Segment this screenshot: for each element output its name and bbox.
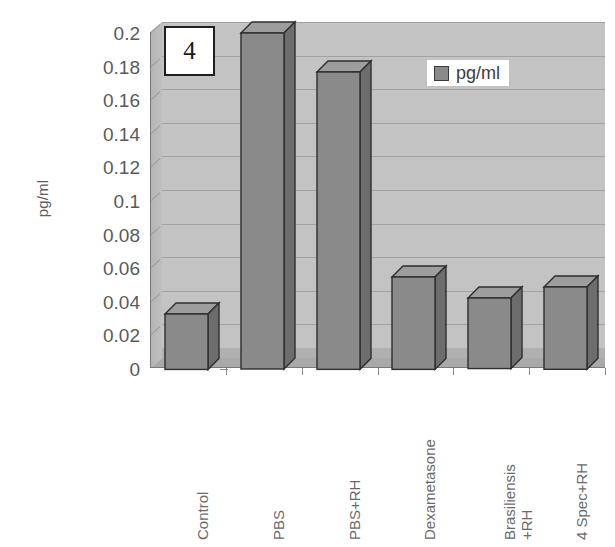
gridline (162, 156, 605, 157)
legend-label: pg/ml (456, 64, 500, 82)
x-axis-category-label-line: PBS+RH (346, 480, 363, 540)
gridline (162, 123, 605, 124)
x-axis-category-label-line: Control (194, 492, 211, 540)
bar-3d-body (543, 275, 600, 370)
gridline (162, 257, 605, 258)
bar-3d-body (164, 302, 221, 370)
y-axis-tick-label: 0.1 (78, 192, 140, 211)
bar (316, 60, 360, 368)
y-axis-line (150, 32, 151, 368)
x-axis-category-label-line: +RH (519, 464, 536, 540)
y-axis-tick-label: 0.08 (78, 225, 140, 244)
bar-chart: pg/ml 0.20.180.160.140.120.10.080.060.04… (0, 0, 615, 547)
gridline (162, 324, 605, 325)
plot-floor-back (162, 348, 605, 358)
x-axis-category-label: Brasiliensis+RH (501, 464, 536, 540)
bar-3d-body (240, 21, 297, 370)
x-axis-tick-mark (605, 368, 606, 375)
gridline (162, 190, 605, 191)
gridline (162, 22, 605, 23)
y-axis-tick-label: 0.02 (78, 326, 140, 345)
y-axis-tick-label: 0.14 (78, 124, 140, 143)
x-axis-category-label-line: PBS (270, 510, 287, 540)
legend-swatch-icon (434, 66, 449, 81)
bar (164, 302, 208, 368)
x-axis-category-labels: ControlPBSPBS+RHDexametasoneBrasiliensis… (150, 372, 605, 547)
x-axis-category-label-line: Brasiliensis (501, 464, 518, 540)
bar-3d-body (316, 60, 373, 370)
bar (391, 265, 435, 368)
bar (240, 21, 284, 368)
y-axis-tick-labels: 0.20.180.160.140.120.10.080.060.040.020 (78, 0, 140, 420)
bar-3d-body (391, 265, 448, 370)
x-axis-category-label-line: 4 Spec+RH (573, 463, 590, 540)
x-axis-category-label-line: Dexametasone (421, 439, 438, 540)
y-axis-tick-label: 0.06 (78, 259, 140, 278)
bar-3d-body (467, 286, 524, 370)
gridline (162, 89, 605, 90)
gridline (162, 224, 605, 225)
x-axis-category-label: Dexametasone (421, 439, 438, 540)
y-axis-tick-label: 0.2 (78, 24, 140, 43)
plot-area (150, 22, 605, 368)
y-axis-tick-label: 0.12 (78, 158, 140, 177)
panel-number-label: 4 (164, 26, 215, 76)
gridline (162, 291, 605, 292)
y-axis-tick-label: 0.04 (78, 292, 140, 311)
x-axis-category-label: 4 Spec+RH (573, 463, 590, 540)
legend: pg/ml (427, 60, 509, 86)
x-axis-category-label: PBS+RH (346, 480, 363, 540)
x-axis-category-label: Control (194, 492, 211, 540)
y-axis-tick-label: 0.16 (78, 91, 140, 110)
x-axis-category-label: PBS (270, 510, 287, 540)
y-axis-title: pg/ml (34, 139, 51, 259)
gridline (162, 56, 605, 57)
y-axis-tick-label: 0.18 (78, 57, 140, 76)
y-axis-tick-label: 0 (78, 360, 140, 379)
bar (543, 275, 587, 368)
bar (467, 286, 511, 368)
